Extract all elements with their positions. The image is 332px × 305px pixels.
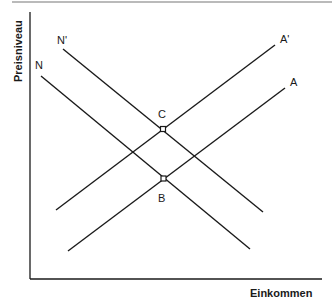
y-axis-label: Preisniveau (12, 20, 24, 82)
label-n-prime: N' (57, 34, 67, 46)
point-c-marker (161, 127, 166, 132)
label-a: A (290, 76, 298, 88)
curve-a (68, 88, 285, 251)
label-n: N (35, 59, 43, 71)
label-c: C (158, 108, 166, 120)
x-axis-label: Einkommen (250, 287, 313, 299)
economics-diagram: Preisniveau Einkommen N' N A' A C B (0, 0, 332, 305)
label-a-prime: A' (280, 33, 289, 45)
curve-n (41, 76, 250, 249)
point-b-marker (161, 176, 166, 181)
label-b: B (158, 192, 165, 204)
